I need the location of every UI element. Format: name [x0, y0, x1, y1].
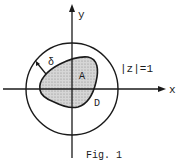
region-a-label: A — [79, 71, 85, 82]
y-axis-label: y — [78, 9, 85, 21]
y-axis-arrow-icon — [69, 4, 75, 12]
delta-label: δ — [48, 57, 54, 68]
figure-caption: Fig. 1 — [86, 150, 122, 161]
x-axis-label: x — [169, 84, 176, 96]
region-d-label: D — [94, 98, 100, 109]
figure-canvas: y x |z|=1 A D δ Fig. 1 — [0, 0, 178, 162]
x-axis-arrow-icon — [158, 86, 166, 92]
circle-label: |z|=1 — [120, 63, 153, 75]
